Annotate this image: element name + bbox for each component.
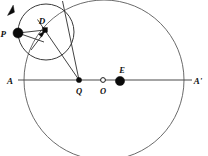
- label-d: D: [38, 16, 46, 26]
- label-q: Q: [76, 86, 82, 96]
- label-a: A: [6, 76, 13, 86]
- outer-rotation-arrow-icon: [8, 5, 15, 15]
- point-marker-o: [101, 78, 106, 83]
- label-e: E: [118, 65, 125, 75]
- geometric-diagram-figure: P D A A' Q O E: [0, 0, 208, 156]
- point-marker-p: [13, 28, 23, 38]
- point-marker-e: [115, 76, 124, 85]
- label-o: O: [100, 86, 106, 96]
- diagram-canvas: P D A A' Q O E: [0, 0, 208, 156]
- point-marker-q: [76, 77, 81, 82]
- label-p: P: [1, 29, 7, 39]
- label-a-prime: A': [193, 76, 203, 86]
- point-marker-d: [43, 28, 48, 33]
